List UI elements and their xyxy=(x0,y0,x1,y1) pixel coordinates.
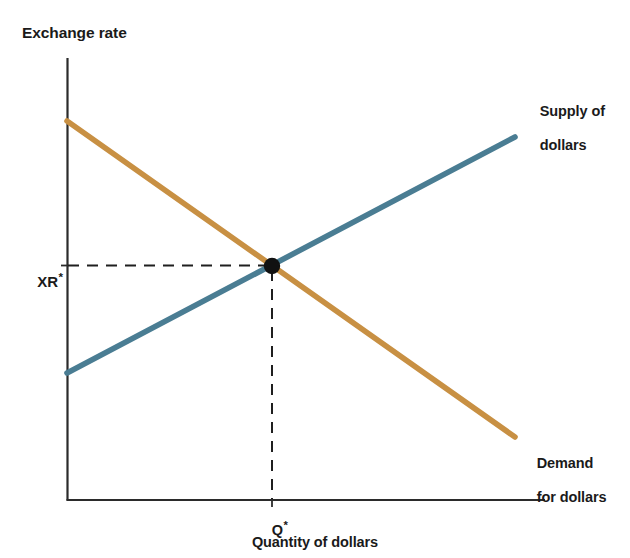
demand-curve xyxy=(67,121,515,437)
equilibrium-exchange-rate-label: XR* xyxy=(21,255,63,308)
demand-curve-label-line1: Demand xyxy=(537,455,594,471)
x-axis-label: Quantity of dollars xyxy=(0,534,630,551)
equilibrium-exchange-rate-star: * xyxy=(58,270,62,283)
supply-curve-label: Supply of dollars xyxy=(524,86,605,172)
equilibrium-quantity-text: Q xyxy=(272,522,283,538)
demand-curve-label-line2: for dollars xyxy=(537,489,607,505)
exchange-rate-supply-demand-figure: Exchange rate Quantity of dollars Supply… xyxy=(0,0,630,558)
supply-curve-label-line1: Supply of xyxy=(540,103,605,119)
equilibrium-point-marker xyxy=(264,258,280,274)
equilibrium-quantity-star: * xyxy=(284,519,288,531)
y-axis-label: Exchange rate xyxy=(22,24,127,42)
supply-curve xyxy=(67,137,515,373)
supply-curve-label-line2: dollars xyxy=(540,137,587,153)
demand-curve-label: Demand for dollars xyxy=(521,438,607,524)
equilibrium-exchange-rate-text: XR xyxy=(37,273,58,290)
equilibrium-quantity-label: Q* xyxy=(255,505,289,556)
